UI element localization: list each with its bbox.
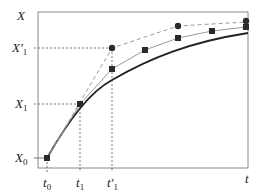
square-approx-line [47, 27, 246, 158]
plot-frame [38, 12, 248, 168]
x-axis-label: t [245, 172, 249, 185]
diagram-canvas [0, 0, 262, 194]
circle-approx-line [47, 22, 246, 158]
y-tick-x1prime: X'1 [12, 41, 27, 57]
x-tick-t0: t0 [43, 176, 51, 192]
circle-marker [175, 23, 181, 29]
square-marker-x1 [77, 101, 83, 107]
circle-marker-x1prime [109, 45, 115, 51]
square-marker [209, 28, 215, 34]
square-markers [44, 24, 249, 161]
x-tick-t1: t1 [76, 176, 84, 192]
x-tick-t1prime: t'1 [107, 176, 118, 192]
square-marker-x0 [44, 155, 50, 161]
guide-lines [34, 48, 112, 172]
square-marker [175, 35, 181, 41]
square-marker [243, 24, 249, 30]
circle-marker [243, 18, 249, 24]
y-tick-x1: X1 [15, 97, 27, 113]
y-axis-label: X [17, 9, 25, 22]
square-marker [109, 66, 115, 72]
square-marker [142, 47, 148, 53]
y-tick-x0: X0 [15, 151, 27, 167]
